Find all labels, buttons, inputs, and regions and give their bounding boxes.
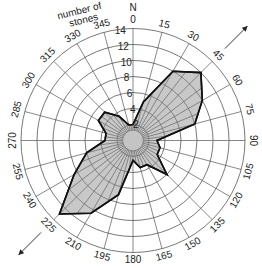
sw-arrow xyxy=(18,232,41,255)
ring-label-8: 8 xyxy=(124,72,130,83)
ring-label-6: 6 xyxy=(127,88,133,99)
bearing-label-105: 105 xyxy=(241,161,256,180)
rose-diagram: 0153045607590105120135150165180195210225… xyxy=(0,0,262,268)
north-label: N xyxy=(129,2,136,13)
ne-arrow xyxy=(225,26,248,49)
bearing-label-15: 15 xyxy=(158,17,172,31)
ring-label-14: 14 xyxy=(115,25,127,36)
center-disc xyxy=(123,130,144,151)
ring-label-10: 10 xyxy=(121,57,133,68)
bearing-label-195: 195 xyxy=(93,248,112,263)
ring-label-4: 4 xyxy=(130,104,136,115)
bearing-label-0: 0 xyxy=(130,14,136,25)
bearing-label-120: 120 xyxy=(227,190,245,210)
bearing-label-30: 30 xyxy=(186,28,202,43)
ring-label-12: 12 xyxy=(118,41,130,52)
ring-label-2: 2 xyxy=(133,119,139,130)
bearing-label-60: 60 xyxy=(230,73,245,89)
bearing-label-270: 270 xyxy=(7,132,18,149)
bearing-label-285: 285 xyxy=(9,99,24,118)
bearing-label-240: 240 xyxy=(21,190,39,210)
bearing-label-255: 255 xyxy=(10,162,25,181)
bearing-label-180: 180 xyxy=(125,254,142,265)
bearing-label-90: 90 xyxy=(248,135,259,147)
bearing-label-45: 45 xyxy=(211,47,227,63)
bearing-label-165: 165 xyxy=(154,248,173,263)
bearing-label-210: 210 xyxy=(63,235,83,253)
bearing-label-75: 75 xyxy=(243,102,257,116)
bearing-label-150: 150 xyxy=(183,235,203,253)
